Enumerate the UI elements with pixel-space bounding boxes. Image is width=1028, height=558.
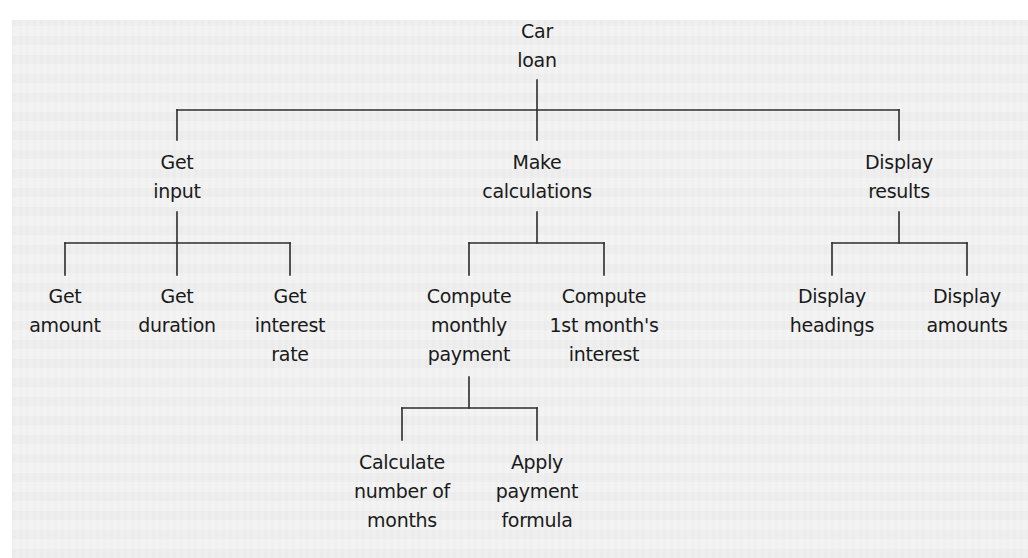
node-compute-monthly-payment: Compute monthly payment	[427, 282, 512, 369]
node-label-line: payment	[496, 477, 579, 506]
node-label-line: amounts	[926, 311, 1007, 340]
node-label-line: Apply	[496, 448, 579, 477]
node-label-line: duration	[138, 311, 216, 340]
node-label-line: Make	[482, 148, 591, 177]
node-label-line: results	[865, 177, 933, 206]
node-label-line: Car	[517, 17, 556, 46]
node-display-amounts: Display amounts	[926, 282, 1007, 340]
node-label-line: Get	[153, 148, 200, 177]
node-label-line: Get	[29, 282, 101, 311]
node-label-line: headings	[790, 311, 874, 340]
node-label-line: Display	[790, 282, 874, 311]
node-display-results: Display results	[865, 148, 933, 206]
node-make-calculations: Make calculations	[482, 148, 591, 206]
node-label-line: interest	[255, 311, 326, 340]
node-label-line: rate	[255, 340, 326, 369]
node-label-line: Compute	[427, 282, 512, 311]
node-label-line: Compute	[550, 282, 659, 311]
node-label-line: Display	[865, 148, 933, 177]
node-label-line: calculations	[482, 177, 591, 206]
node-display-headings: Display headings	[790, 282, 874, 340]
node-car-loan: Car loan	[517, 17, 556, 75]
node-label-line: loan	[517, 46, 556, 75]
node-label-line: formula	[496, 506, 579, 535]
node-get-duration: Get duration	[138, 282, 216, 340]
node-compute-first-month-interest: Compute 1st month's interest	[550, 282, 659, 369]
node-label-line: Get	[255, 282, 326, 311]
node-label-line: interest	[550, 340, 659, 369]
node-label-line: monthly	[427, 311, 512, 340]
node-label-line: input	[153, 177, 200, 206]
node-label-line: 1st month's	[550, 311, 659, 340]
node-label-line: Display	[926, 282, 1007, 311]
node-get-amount: Get amount	[29, 282, 101, 340]
node-calculate-number-of-months: Calculate number of months	[354, 448, 450, 535]
node-label-line: number of	[354, 477, 450, 506]
node-get-input: Get input	[153, 148, 200, 206]
node-label-line: months	[354, 506, 450, 535]
node-apply-payment-formula: Apply payment formula	[496, 448, 579, 535]
node-get-interest-rate: Get interest rate	[255, 282, 326, 369]
node-label-line: payment	[427, 340, 512, 369]
node-label-line: Calculate	[354, 448, 450, 477]
node-label-line: Get	[138, 282, 216, 311]
node-label-line: amount	[29, 311, 101, 340]
